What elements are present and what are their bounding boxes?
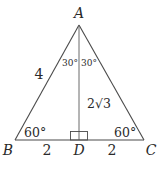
- altitude-label-radical: √3: [95, 96, 111, 111]
- angle-acd-label: 60°: [114, 125, 136, 140]
- angle-abd-label: 60°: [24, 125, 46, 140]
- side-dc-label: 2: [108, 142, 117, 158]
- vertex-c-label: C: [146, 142, 157, 158]
- vertex-b-label: B: [2, 142, 13, 158]
- vertex-a-label: A: [72, 5, 84, 21]
- angle-dac-label: 30°: [81, 58, 97, 68]
- vertex-d-label: D: [72, 142, 84, 158]
- triangle-diagram: A B D C 4 2 2 2 √3 30° 30° 60° 60°: [0, 0, 162, 169]
- side-ab: [15, 25, 79, 140]
- altitude-label-prefix: 2: [87, 96, 95, 111]
- side-bd-label: 2: [43, 142, 52, 158]
- side-ab-label: 4: [35, 66, 44, 82]
- angle-bad-label: 30°: [62, 58, 78, 68]
- side-ac: [79, 25, 144, 140]
